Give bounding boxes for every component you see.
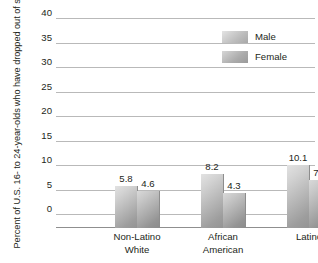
y-axis-tick-labels: 4035302520151050	[32, 18, 52, 218]
y-tick-label-30: 30	[34, 57, 52, 67]
bar-male-1	[115, 186, 138, 228]
chart-legend: Male Female	[222, 30, 312, 68]
y-tick-label-15: 15	[34, 131, 52, 141]
y-tick-label-35: 35	[34, 33, 52, 43]
x-axis-category-labels: Non-LatinoWhiteAfricanAmericanLatino	[56, 231, 315, 263]
bar-value-label-female-2: 4.3	[217, 181, 251, 191]
bar-value-label-female-1: 4.6	[131, 179, 165, 189]
y-tick-label-10: 10	[34, 155, 52, 165]
y-axis-title-line-2: who have dropped out of school	[12, 0, 23, 106]
y-axis-title-line-1: Percent of U.S. 16- to 24-year-olds	[12, 108, 23, 248]
y-tick-label-25: 25	[34, 82, 52, 92]
legend-label-male: Male	[255, 32, 276, 42]
bar-value-label-male-2: 8.2	[195, 162, 229, 172]
bar-female-2	[223, 193, 246, 228]
legend-item-male: Male	[222, 30, 276, 44]
y-tick-label-40: 40	[34, 8, 52, 18]
legend-item-female: Female	[222, 50, 287, 64]
bar-chart: Percent of U.S. 16- to 24-year-olds who …	[0, 0, 318, 263]
y-tick-label-20: 20	[34, 106, 52, 116]
bar-value-label-male-3: 10.1	[281, 153, 315, 163]
legend-swatch-female	[222, 51, 248, 63]
category-label-1-line-2: White	[92, 244, 182, 256]
category-label-3-line-1: Latino	[264, 231, 318, 243]
bar-female-3	[309, 180, 318, 228]
y-axis-title: Percent of U.S. 16- to 24-year-olds who …	[0, 0, 34, 235]
category-label-2-line-2: American	[178, 244, 268, 256]
category-label-1-line-1: Non-Latino	[92, 231, 182, 243]
bar-female-1	[137, 191, 160, 228]
legend-label-female: Female	[255, 52, 287, 62]
bar-value-label-female-3: 7.0	[303, 168, 318, 178]
y-tick-label-5: 5	[34, 180, 52, 190]
category-label-2-line-1: African	[178, 231, 268, 243]
legend-swatch-male	[222, 31, 248, 43]
y-tick-label-0: 0	[34, 204, 52, 214]
